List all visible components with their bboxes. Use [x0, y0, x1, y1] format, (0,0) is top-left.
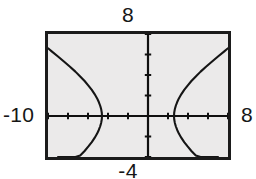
curve-hyperbola-right-branch-upper [174, 48, 228, 116]
window-label-ymax: 8 [0, 4, 256, 25]
window-label-xmax: 8 [241, 104, 253, 125]
axes-group [48, 34, 228, 157]
graphing-calculator-screen: 8 -10 8 -4 [0, 0, 256, 179]
window-label-xmin: -10 [3, 104, 34, 125]
curve-hyperbola-left-branch [48, 48, 102, 116]
curve-group [48, 48, 228, 157]
window-label-ymin: -4 [0, 160, 256, 179]
plot-area [48, 34, 228, 157]
graph-viewport-frame [45, 31, 231, 160]
curve-hyperbola-left-branch-lower [58, 116, 102, 157]
hyperbola-plot [48, 34, 228, 157]
curve-hyperbola-right-branch-lower [174, 116, 218, 157]
